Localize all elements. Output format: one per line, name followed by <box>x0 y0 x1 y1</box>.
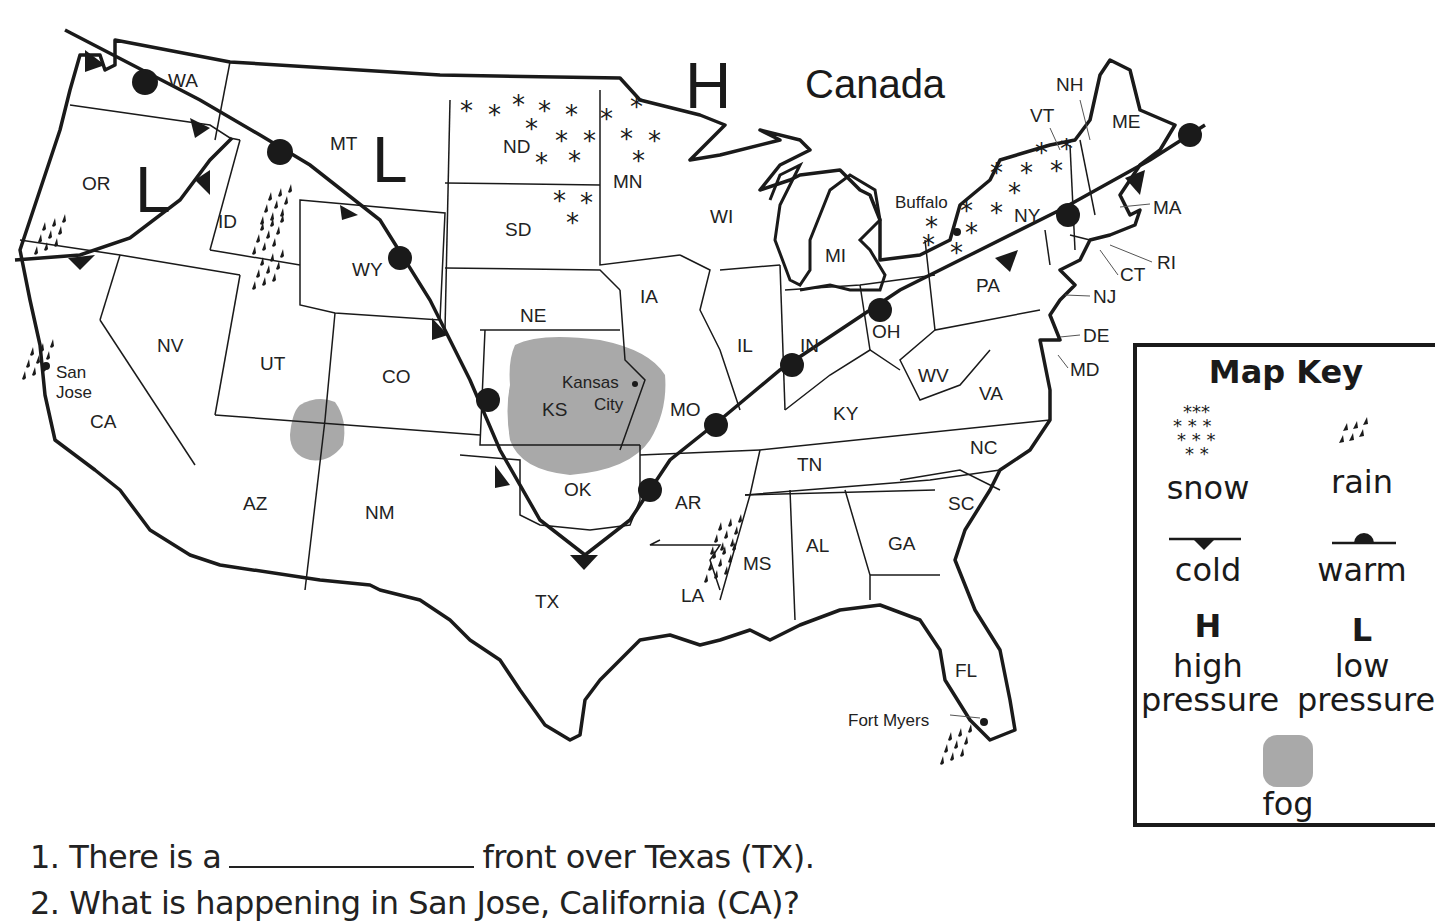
svg-text:DE: DE <box>1083 325 1109 346</box>
svg-text:MS: MS <box>743 553 772 574</box>
svg-text:MD: MD <box>1070 359 1100 380</box>
svg-text:WY: WY <box>352 259 383 280</box>
svg-text:WV: WV <box>918 365 949 386</box>
svg-text:OH: OH <box>872 321 901 342</box>
rain-area-san-jose <box>22 339 54 380</box>
svg-text:VA: VA <box>979 383 1003 404</box>
svg-text:NY: NY <box>1014 205 1041 226</box>
svg-text:*: * <box>630 92 643 122</box>
svg-text:*: * <box>555 126 568 156</box>
rain-icon <box>1333 413 1373 453</box>
snow-area-plains: *** *** *** *** *** *** <box>460 90 661 238</box>
svg-text:FL: FL <box>955 660 977 681</box>
svg-text:OK: OK <box>564 479 592 500</box>
svg-text:KS: KS <box>542 399 567 420</box>
fog-area-four-corners <box>290 399 344 460</box>
svg-text:*: * <box>950 238 963 268</box>
svg-text:*: * <box>1035 138 1048 168</box>
svg-text:GA: GA <box>888 533 916 554</box>
svg-text:*: * <box>460 96 473 126</box>
svg-text:PA: PA <box>976 275 1000 296</box>
rain-area-oregon <box>34 214 66 255</box>
svg-text:SC: SC <box>948 493 974 514</box>
high-pressure-marker: H <box>685 50 731 122</box>
svg-text:WA: WA <box>168 70 198 91</box>
fog-icon <box>1263 735 1313 787</box>
svg-text:NJ: NJ <box>1093 286 1116 307</box>
svg-text:*: * <box>1020 158 1033 188</box>
svg-text:UT: UT <box>260 353 286 374</box>
svg-text:NE: NE <box>520 305 546 326</box>
svg-text:CO: CO <box>382 366 411 387</box>
rain-area-idaho-2 <box>252 214 284 255</box>
question-2-text: What is happening in San Jose, Californi… <box>69 884 799 922</box>
svg-text:AZ: AZ <box>243 493 268 514</box>
key-label-low: low <box>1297 649 1427 683</box>
svg-text:San: San <box>56 363 86 382</box>
svg-text:OR: OR <box>82 173 111 194</box>
svg-text:WI: WI <box>710 206 733 227</box>
key-label-high-pressure: pressure <box>1137 683 1283 717</box>
question-1-number: 1. <box>30 838 60 876</box>
warm-front-icon <box>1332 527 1396 547</box>
svg-text:Jose: Jose <box>56 383 92 402</box>
svg-text:*: * <box>1008 178 1021 208</box>
canada-label: Canada <box>805 62 946 106</box>
svg-text:LA: LA <box>681 585 705 606</box>
key-label-warm: warm <box>1297 553 1427 587</box>
question-1: 1. There is afront over Texas (TX). <box>30 836 814 876</box>
svg-text:MO: MO <box>670 399 701 420</box>
low-pressure-symbol: L <box>1297 613 1427 647</box>
svg-text:NC: NC <box>970 437 997 458</box>
svg-text:*: * <box>990 198 1003 228</box>
svg-text:AL: AL <box>806 535 829 556</box>
svg-text:AR: AR <box>675 492 701 513</box>
svg-text:IN: IN <box>800 335 819 356</box>
svg-text:NH: NH <box>1056 74 1083 95</box>
svg-text:*: * <box>1050 156 1063 186</box>
svg-text:NV: NV <box>157 335 184 356</box>
key-label-high: high <box>1143 649 1273 683</box>
svg-text:Buffalo: Buffalo <box>895 193 948 212</box>
lake-michigan <box>770 165 885 290</box>
snow-icon: **** * ** * ** * <box>1173 405 1243 467</box>
svg-text:*: * <box>512 90 525 120</box>
key-label-cold: cold <box>1143 553 1273 587</box>
svg-text:*: * <box>648 126 661 156</box>
rain-area-idaho-3 <box>252 249 284 290</box>
svg-text:ID: ID <box>218 211 237 232</box>
svg-text:IA: IA <box>640 286 658 307</box>
svg-text:*: * <box>538 96 551 126</box>
svg-text:*: * <box>488 100 501 130</box>
svg-text:*: * <box>965 218 978 248</box>
svg-text:City: City <box>594 395 624 414</box>
rain-area-idaho <box>260 184 292 225</box>
svg-text:*: * <box>535 148 548 178</box>
svg-text:*: * <box>600 104 613 134</box>
front-northwest <box>15 138 232 270</box>
answer-blank-1[interactable] <box>229 836 474 868</box>
svg-text:*: * <box>583 126 596 156</box>
svg-text:*: * <box>580 188 593 218</box>
svg-text:MT: MT <box>330 133 358 154</box>
svg-text:ME: ME <box>1112 111 1141 132</box>
map-key: Map Key **** * ** * ** * snow rain cold … <box>1133 343 1435 827</box>
rain-area-mississippi <box>710 514 742 555</box>
question-2-number: 2. <box>30 884 60 922</box>
key-label-fog: fog <box>1223 787 1353 821</box>
svg-text:VT: VT <box>1030 105 1055 126</box>
svg-text:MA: MA <box>1153 197 1182 218</box>
svg-text:ND: ND <box>503 136 530 157</box>
svg-text:CT: CT <box>1120 264 1146 285</box>
question-1-before: There is a <box>69 838 221 876</box>
city-san-jose: San Jose <box>42 362 92 402</box>
svg-text:SD: SD <box>505 219 531 240</box>
low-pressure-marker-or: L <box>135 154 171 226</box>
svg-text:TN: TN <box>797 454 822 475</box>
svg-text:*: * <box>568 146 581 176</box>
svg-text:*: * <box>922 230 935 260</box>
map-key-title: Map Key <box>1137 353 1435 391</box>
svg-text:CA: CA <box>90 411 117 432</box>
svg-text:IL: IL <box>737 335 753 356</box>
key-label-low-pressure: pressure <box>1293 683 1435 717</box>
